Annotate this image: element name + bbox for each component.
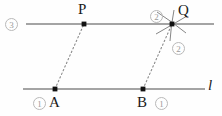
segment-BQ — [143, 24, 172, 89]
step-badge-2-upper: 2 — [150, 10, 163, 23]
dashed-segments — [55, 24, 172, 89]
point-label-Q: Q — [178, 3, 189, 18]
point-Q-dot — [170, 22, 175, 27]
point-label-P: P — [78, 2, 86, 17]
solid-lines — [23, 24, 214, 89]
step-badge-3-left: 3 — [5, 18, 18, 31]
line-label-l: l — [208, 78, 212, 93]
step-badge-2-lower: 2 — [172, 42, 185, 55]
point-label-A: A — [49, 95, 60, 110]
step-badge-1-at-a: 1 — [33, 97, 46, 110]
points-group — [53, 22, 175, 92]
step-badge-1-at-b: 1 — [155, 97, 168, 110]
point-B-dot — [141, 87, 146, 92]
point-P-dot — [82, 22, 87, 27]
point-label-B: B — [137, 95, 147, 110]
point-A-dot — [53, 87, 58, 92]
segment-AP — [55, 24, 84, 89]
geometry-figure: P Q A B l 3 2 2 1 1 — [0, 0, 222, 116]
